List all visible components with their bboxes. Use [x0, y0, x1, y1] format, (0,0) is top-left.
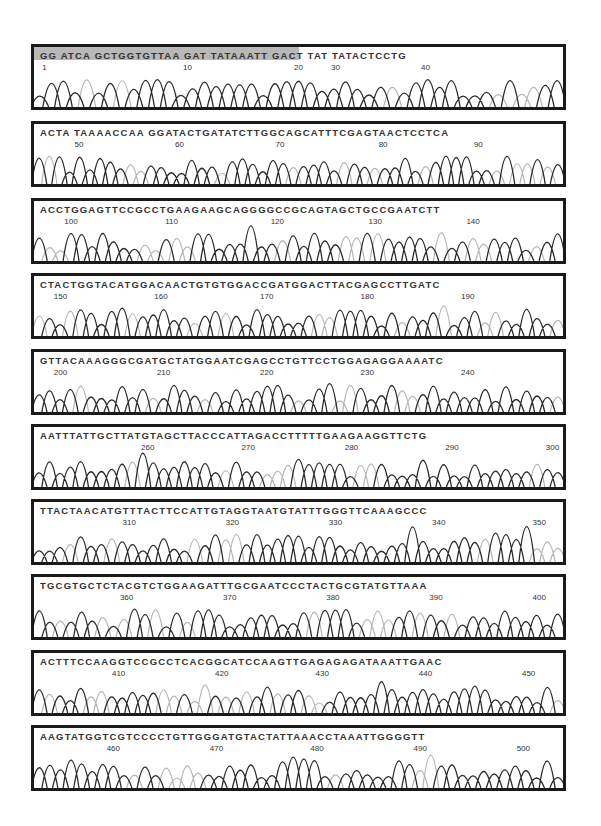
base-sequence: TGCGTGCTCTACGTCTGGAAGATTTGCGAATCCCTACTGC…: [40, 580, 559, 592]
fluorescence-trace: [34, 449, 563, 487]
chromatogram-row: CTACTGGTACATGGACAACTGTGTGGACCGATGGACTTAC…: [31, 273, 566, 339]
base-sequence: AATTTATTGCTTATGTAGCTTACCCATTAGACCTTTTTGA…: [40, 430, 559, 442]
chromatogram-row: TGCGTGCTCTACGTCTGGAAGATTTGCGAATCCCTACTGC…: [31, 574, 566, 640]
base-sequence: GTTACAAAGGGCGATGCTATGGAATCGAGCCTGTTCCTGG…: [40, 355, 559, 367]
fluorescence-trace: [34, 69, 563, 107]
fluorescence-trace: [34, 524, 563, 562]
chromatogram-row: AATTTATTGCTTATGTAGCTTACCCATTAGACCTTTTTGA…: [31, 424, 566, 490]
base-sequence: ACCTGGAGTTCCGCCTGAAGAAGCAGGGGCCGCAGTAGCT…: [40, 204, 559, 216]
chromatogram-row: ACTTTCCAAGGTCCGCCTCACGGCATCCAAGTTGAGAGAG…: [31, 650, 566, 716]
base-sequence: ACTTTCCAAGGTCCGCCTCACGGCATCCAAGTTGAGAGAG…: [40, 656, 559, 668]
fluorescence-trace: [34, 223, 563, 261]
fluorescence-trace: [34, 675, 563, 713]
base-sequence: TTACTAACATGTTTACTTCCATTGTAGGTAATGTATTTGG…: [40, 505, 559, 517]
base-sequence: GG ATCA GCTGGTGTTAA GAT TATAAATT GACT TA…: [40, 50, 559, 62]
chromatogram-row: GTTACAAAGGGCGATGCTATGGAATCGAGCCTGTTCCTGG…: [31, 349, 566, 415]
chromatogram-row: ACTA TAAAACCAA GGATACTGATATCTTGGCAGCATTT…: [31, 121, 566, 187]
chromatogram-row: AAGTATGGTCGTCCCCTGTTGGGATGTACTATTAAACCTA…: [31, 725, 566, 791]
chromatogram-row: TTACTAACATGTTTACTTCCATTGTAGGTAATGTATTTGG…: [31, 499, 566, 565]
base-sequence: CTACTGGTACATGGACAACTGTGTGGACCGATGGACTTAC…: [40, 279, 559, 291]
chromatogram-row: ACCTGGAGTTCCGCCTGAAGAAGCAGGGGCCGCAGTAGCT…: [31, 198, 566, 264]
base-sequence: AAGTATGGTCGTCCCCTGTTGGGATGTACTATTAAACCTA…: [40, 731, 559, 743]
chromatogram-row: GG ATCA GCTGGTGTTAA GAT TATAAATT GACT TA…: [31, 44, 566, 110]
base-sequence: ACTA TAAAACCAA GGATACTGATATCTTGGCAGCATTT…: [40, 127, 559, 139]
fluorescence-trace: [34, 750, 563, 788]
fluorescence-trace: [34, 374, 563, 412]
fluorescence-trace: [34, 146, 563, 184]
fluorescence-trace: [34, 599, 563, 637]
fluorescence-trace: [34, 298, 563, 336]
